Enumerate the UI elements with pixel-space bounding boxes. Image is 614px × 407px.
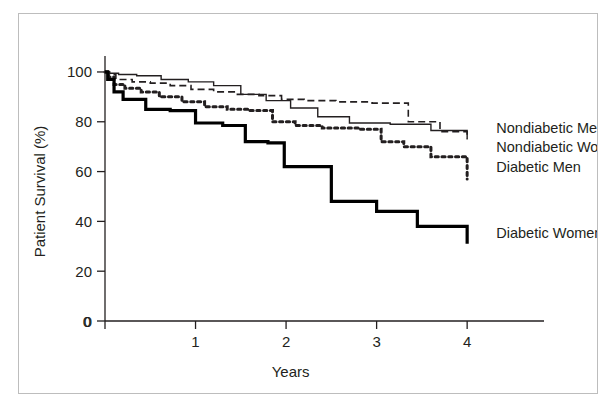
survival-plot: 02040608010001234YearsPatient Survival (… (19, 14, 597, 393)
series-line-0 (105, 72, 467, 139)
x-tick-label: 2 (282, 333, 290, 350)
y-axis-title: Patient Survival (%) (31, 126, 48, 258)
y-tick-label: 60 (75, 163, 92, 180)
x-axis-title: Years (272, 363, 310, 380)
y-tick-label: 40 (75, 213, 92, 230)
series-label-3: Diabetic Women (496, 225, 597, 241)
series-label-2: Diabetic Men (496, 159, 581, 175)
x-tick-label: 1 (191, 333, 199, 350)
series-label-0: Nondiabetic Men (496, 120, 597, 136)
x-tick-label: 0 (83, 313, 91, 330)
series-line-3 (105, 72, 467, 244)
series-line-2 (105, 72, 467, 179)
y-tick-label: 80 (75, 113, 92, 130)
series-line-1 (105, 72, 467, 139)
y-tick-label: 100 (67, 63, 92, 80)
figure-frame: 02040608010001234YearsPatient Survival (… (18, 13, 598, 394)
y-tick-label: 20 (75, 263, 92, 280)
series-label-1: Nondiabetic Women (496, 139, 597, 155)
x-tick-label: 3 (372, 333, 380, 350)
figure-root: 02040608010001234YearsPatient Survival (… (0, 0, 614, 407)
x-tick-label: 4 (463, 333, 471, 350)
